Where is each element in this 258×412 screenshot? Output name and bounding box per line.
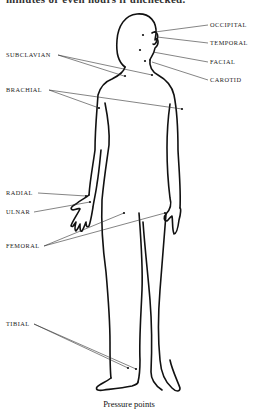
label-carotid: CAROTID — [210, 77, 242, 83]
inner-legs-outline — [138, 213, 142, 382]
left-foot-outline — [96, 378, 138, 390]
label-tibial: TIBIAL — [6, 321, 30, 327]
point-ulnar — [89, 201, 91, 203]
label-temporal: TEMPORAL — [210, 40, 248, 46]
point-carotid — [144, 60, 146, 62]
head-outline — [117, 14, 158, 67]
point-temporal — [142, 34, 144, 36]
point-radial — [85, 195, 87, 197]
point-tibial-right — [135, 368, 137, 370]
left-arm-outline — [71, 150, 101, 231]
left-shoulder-outline — [89, 67, 125, 195]
label-femoral: FEMORAL — [6, 243, 40, 249]
point-subclavian-right — [151, 74, 153, 76]
point-femoral-right — [164, 212, 166, 214]
label-occipital: OCCIPITAL — [210, 22, 247, 28]
point-tibial-left — [127, 367, 129, 369]
label-brachial: BRACHIAL — [6, 87, 42, 93]
point-femoral-left — [123, 212, 125, 214]
point-facial — [139, 49, 141, 51]
point-brachial-left — [98, 107, 100, 109]
point-brachial-right — [181, 108, 183, 110]
right-shoulder-outline — [150, 60, 180, 208]
figure-caption: Pressure points — [0, 399, 258, 409]
label-subclavian: SUBCLAVIAN — [6, 52, 51, 58]
right-thigh-outline — [159, 214, 181, 391]
left-torso-outline — [102, 103, 111, 378]
label-ulnar: ULNAR — [6, 209, 30, 215]
label-radial: RADIAL — [6, 190, 33, 196]
point-subclavian-left — [124, 75, 126, 77]
point-occipital — [154, 31, 156, 33]
label-facial: FACIAL — [210, 59, 235, 65]
